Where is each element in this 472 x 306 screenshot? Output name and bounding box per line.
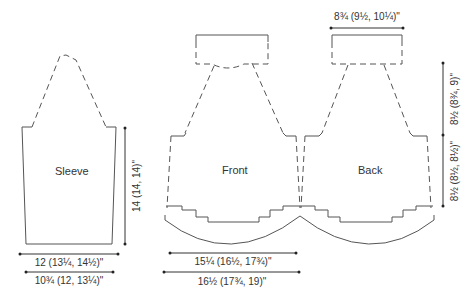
front-hem-curve (165, 215, 300, 244)
front-neckline (196, 42, 268, 68)
front-piece: Front (165, 35, 300, 244)
back-hem-steps (300, 206, 433, 222)
front-hem-steps (166, 206, 300, 222)
back-hem-curve (300, 215, 434, 244)
back-vertical-dimensions: 8½ (8¾, 9)" 8½ (8½, 8½)" (442, 62, 461, 208)
back-neck-width-dimension: 8¾ (9½, 10¼)" (330, 11, 405, 30)
sleeve-cap (32, 55, 106, 127)
front-hem-width-dimension: 15¼ (16½, 17¾)" (169, 252, 298, 268)
front-chest-width-label: 16½ (17¾, 19)" (198, 276, 267, 287)
back-neck-width-label: 8¾ (9½, 10¼)" (334, 11, 400, 22)
back-side-length-label: 8½ (8½, 8½)" (449, 140, 460, 201)
back-label: Back (358, 164, 383, 176)
back-neckline (332, 42, 402, 64)
sleeve-label: Sleeve (55, 165, 89, 177)
sleeve-upper-width-dimension: 12 (13¼, 14½)" (19, 253, 120, 269)
schematic-diagram: Sleeve 14 (14, 14)" 12 (13¼, 14½)" 10¾ (… (0, 0, 472, 306)
sleeve-lower-width-label: 10¾ (12, 13¼)" (35, 275, 104, 286)
front-hem-width-label: 15¼ (16½, 17¾)" (195, 256, 272, 267)
sleeve-length-label: 14 (14, 14)" (131, 160, 142, 212)
back-armhole-depth-label: 8½ (8¾, 9)" (449, 73, 460, 125)
sleeve-lower-width-dimension: 10¾ (12, 13¼)" (25, 271, 115, 287)
front-chest-width-dimension: 16½ (17¾, 19)" (163, 271, 301, 288)
sleeve-body (22, 127, 116, 244)
sleeve-upper-width-label: 12 (13¼, 14½)" (35, 257, 104, 268)
sleeve-piece: Sleeve (22, 55, 116, 244)
back-piece: Back (300, 35, 434, 244)
front-label: Front (222, 164, 248, 176)
sleeve-length-dimension: 14 (14, 14)" (124, 127, 143, 246)
